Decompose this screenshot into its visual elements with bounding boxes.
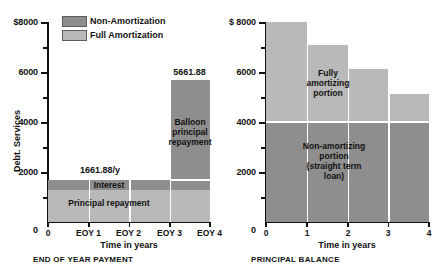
left-ytick-8000 xyxy=(41,22,48,24)
right-ytick-6000 xyxy=(259,72,266,74)
left-xtick-3 xyxy=(169,222,171,227)
left-balloon-label: Balloon principal repayment xyxy=(163,117,217,147)
left-balloon-label-line2: principal xyxy=(163,127,217,137)
right-ytick-label-2000: 2000 xyxy=(218,168,256,177)
left-ytick-4000 xyxy=(41,122,48,124)
right-xtick-label-0: 0 xyxy=(252,229,280,238)
legend-label-full-amortization: Full Amortization xyxy=(90,30,163,41)
right-ytick-label-4000: 4000 xyxy=(218,118,256,127)
left-xtick-4 xyxy=(209,222,211,227)
right-non-amortizing-line3: (straight term xyxy=(290,161,378,171)
right-fully-amortizing-line2: amortizing xyxy=(296,78,360,88)
left-xtick-label-eoy2: EOY 2 xyxy=(106,229,151,238)
legend-swatch-non-amortization xyxy=(62,16,87,27)
left-xtick-0 xyxy=(47,222,49,227)
right-panel-caption: PRINCIPAL BALANCE xyxy=(251,255,340,264)
right-xtick-label-2: 2 xyxy=(334,229,362,238)
right-ytick-2000 xyxy=(259,172,266,174)
left-ytick-label-0: 0 xyxy=(0,226,38,235)
right-xtick-label-4: 4 xyxy=(415,229,437,238)
left-ytick-3000 xyxy=(43,147,48,149)
left-legend: Non-Amortization Full Amortization xyxy=(62,15,202,45)
right-xtick-label-1: 1 xyxy=(293,229,321,238)
right-non-amortizing-line1: Non-amortizing xyxy=(290,141,378,151)
right-xtick-1 xyxy=(306,222,308,227)
right-xtick-label-3: 3 xyxy=(374,229,402,238)
right-ytick-label-8000: $ 8000 xyxy=(218,18,256,27)
left-balloon-label-line1: Balloon xyxy=(163,117,217,127)
right-amortizing-boundary-separator xyxy=(266,121,429,123)
left-ytick-label-8000: $8000 xyxy=(0,18,38,27)
right-ytick-label-0: 0 xyxy=(218,226,256,235)
right-fully-amortizing-label: Fully amortizing portion xyxy=(296,68,360,98)
left-x-axis-title: Time in years xyxy=(69,240,189,250)
right-fully-amortizing-line1: Fully xyxy=(296,68,360,78)
left-xtick-label-eoy1: EOY 1 xyxy=(66,229,111,238)
right-xtick-4 xyxy=(428,222,430,227)
left-ytick-label-6000: 6000 xyxy=(0,68,38,77)
left-interest-label: Interest xyxy=(48,181,170,190)
left-ytick-7000 xyxy=(43,47,48,49)
right-fully-amortizing-line3: portion xyxy=(296,88,360,98)
left-xtick-label-eoy3: EOY 3 xyxy=(147,229,192,238)
left-ytick-2000 xyxy=(41,172,48,174)
left-xtick-2 xyxy=(129,222,131,227)
right-non-amortizing-label: Non-amortizing portion (straight term lo… xyxy=(290,141,378,181)
right-x-axis-title: Time in years xyxy=(287,240,407,250)
left-y-axis-title: Debt. Services xyxy=(12,110,22,172)
panel-principal-balance: $ 8000 6000 4000 2000 0 Fully amortizing… xyxy=(218,0,437,275)
right-xtick-2 xyxy=(347,222,349,227)
right-column-separator-3 xyxy=(388,94,390,222)
right-ytick-label-6000: 6000 xyxy=(218,68,256,77)
right-xtick-3 xyxy=(388,222,390,227)
right-non-amortizing-line4: loan) xyxy=(290,171,378,181)
panel-end-of-year-payment: $8000 6000 4000 2000 0 Debt. Services 16… xyxy=(0,0,218,275)
right-xtick-0 xyxy=(265,222,267,227)
legend-swatch-full-amortization xyxy=(62,30,87,41)
left-ytick-5000 xyxy=(43,97,48,99)
right-ytick-8000 xyxy=(259,22,266,24)
figure-amortization-comparison: $8000 6000 4000 2000 0 Debt. Services 16… xyxy=(0,0,437,275)
left-panel-caption: END OF YEAR PAYMENT xyxy=(33,255,133,264)
left-ytick-6000 xyxy=(41,72,48,74)
left-xtick-label-0: 0 xyxy=(34,229,62,238)
left-balloon-label-line3: repayment xyxy=(163,137,217,147)
legend-label-non-amortization: Non-Amortization xyxy=(90,16,166,27)
left-annual-payment-value: 1661.88/y xyxy=(60,166,140,175)
left-principal-label: Principal repayment xyxy=(48,199,170,208)
left-xtick-1 xyxy=(88,222,90,227)
right-ytick-4000 xyxy=(259,122,266,124)
left-balloon-base-separator xyxy=(170,179,211,181)
right-non-amortizing-line2: portion xyxy=(290,151,378,161)
